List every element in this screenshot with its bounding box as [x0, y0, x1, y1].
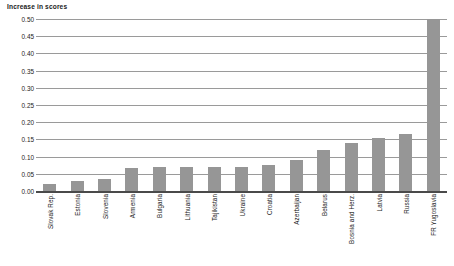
bar-slot [365, 19, 392, 191]
bar-slot [228, 19, 255, 191]
bar[interactable] [345, 143, 358, 191]
y-axis-tick-label: 0.10 [0, 153, 34, 160]
y-axis-tick-label: 0.50 [0, 16, 34, 23]
bar[interactable] [372, 138, 385, 191]
x-label-slot: Ukraine [228, 194, 255, 264]
x-label-slot: Bulgaria [146, 194, 173, 264]
bar[interactable] [317, 150, 330, 191]
bar-slot [36, 19, 63, 191]
x-label-slot: Slovenia [91, 194, 118, 264]
bar[interactable] [235, 167, 248, 191]
x-axis-tick-label: Armenia [128, 194, 135, 218]
bar-slot [420, 19, 447, 191]
x-axis-tick-label: Estonia [74, 194, 81, 216]
y-axis-tick-label: 0.05 [0, 170, 34, 177]
bar-slot [173, 19, 200, 191]
x-label-slot: FR Yugoslavia [420, 194, 447, 264]
bar[interactable] [71, 181, 84, 191]
x-axis-tick-label: Croatia [265, 194, 272, 215]
x-label-slot: Bosnia and Herz. [337, 194, 364, 264]
x-label-slot: Azerbaijan [283, 194, 310, 264]
x-label-slot: Croatia [255, 194, 282, 264]
bars-container [36, 19, 447, 191]
x-axis-tick-label: Bulgaria [156, 194, 163, 218]
bar[interactable] [427, 19, 440, 191]
x-axis-line [36, 191, 447, 193]
bar[interactable] [153, 167, 166, 191]
x-label-slot: Belarus [310, 194, 337, 264]
y-axis-tick-label: 0.30 [0, 84, 34, 91]
bar[interactable] [43, 184, 56, 191]
x-axis-tick-label: FR Yugoslavia [430, 194, 437, 236]
bar-slot [63, 19, 90, 191]
bar[interactable] [180, 167, 193, 191]
x-axis-tick-label: Slovak Rep. [46, 194, 53, 229]
x-axis-tick-label: Tajikistan [211, 194, 218, 221]
x-axis-tick-label: Latvia [375, 194, 382, 211]
bar-chart: Increase in scores 0.500.450.400.350.300… [0, 0, 454, 266]
x-label-slot: Armenia [118, 194, 145, 264]
x-label-slot: Russia [392, 194, 419, 264]
chart-title: Increase in scores [7, 3, 67, 10]
bar[interactable] [399, 134, 412, 191]
bar-slot [118, 19, 145, 191]
x-axis-tick-label: Ukraine [238, 194, 245, 216]
bar[interactable] [208, 167, 221, 191]
bar-slot [91, 19, 118, 191]
y-axis-tick-label: 0.20 [0, 119, 34, 126]
y-axis-tick-label: 0.15 [0, 136, 34, 143]
bar[interactable] [290, 160, 303, 191]
x-axis-tick-label: Azerbaijan [293, 194, 300, 225]
x-label-slot: Tajikistan [200, 194, 227, 264]
bar[interactable] [125, 168, 138, 191]
x-axis-tick-label: Slovenia [101, 194, 108, 219]
y-axis-tick-label: 0.25 [0, 102, 34, 109]
bar-slot [337, 19, 364, 191]
x-axis-tick-label: Russia [402, 194, 409, 214]
x-label-slot: Estonia [63, 194, 90, 264]
x-axis-tick-label: Lithuania [183, 194, 190, 220]
bar[interactable] [262, 165, 275, 191]
y-axis-tick-label: 0.45 [0, 33, 34, 40]
bar-slot [200, 19, 227, 191]
y-axis-tick-labels: 0.500.450.400.350.300.250.200.150.100.05… [0, 19, 34, 191]
bar-slot [310, 19, 337, 191]
x-label-slot: Latvia [365, 194, 392, 264]
bar-slot [392, 19, 419, 191]
y-axis-tick-label: 0.35 [0, 67, 34, 74]
bar-slot [255, 19, 282, 191]
bar[interactable] [98, 179, 111, 191]
bar-slot [283, 19, 310, 191]
x-label-slot: Slovak Rep. [36, 194, 63, 264]
x-axis-tick-label: Belarus [320, 194, 327, 216]
x-axis-tick-labels: Slovak Rep.EstoniaSloveniaArmeniaBulgari… [36, 194, 447, 264]
y-axis-tick-label: 0.40 [0, 50, 34, 57]
bar-slot [146, 19, 173, 191]
y-axis-tick-label: 0.00 [0, 188, 34, 195]
x-label-slot: Lithuania [173, 194, 200, 264]
x-axis-tick-label: Bosnia and Herz. [348, 194, 355, 244]
